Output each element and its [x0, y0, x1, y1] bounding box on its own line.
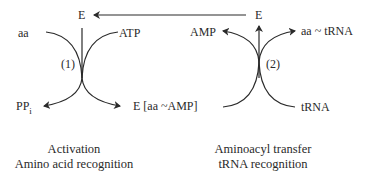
e-aa-amp-output-arrow	[82, 78, 120, 106]
caption-1-line-1: Activation	[8, 142, 140, 157]
ppi-output-arrow	[44, 78, 82, 106]
enzyme-label-2: E	[255, 8, 262, 22]
step-label-1: (1)	[61, 57, 75, 71]
amp-label: AMP	[190, 25, 216, 39]
ppi-text: PP	[16, 99, 30, 113]
trna-label: tRNA	[301, 100, 330, 114]
e-aa-amp-label: E [aa ~AMP]	[133, 99, 197, 113]
aa-input-curve	[46, 32, 82, 78]
caption-2-line-2: tRNA recognition	[202, 157, 324, 172]
ppi-subscript: i	[29, 106, 32, 116]
amp-output-arrow	[223, 31, 259, 62]
ppi-label: PPi	[16, 99, 32, 116]
atp-input-curve	[82, 32, 118, 78]
aa-trna-label: aa ~ tRNA	[301, 24, 353, 38]
enzyme-label-1: E	[78, 8, 85, 22]
atp-label: ATP	[119, 26, 141, 40]
caption-2-line-1: Aminoacyl transfer	[202, 142, 324, 157]
step-label-2: (2)	[266, 57, 280, 71]
e-aa-amp-input-curve	[223, 62, 259, 107]
caption-1-line-2: Amino acid recognition	[8, 157, 140, 172]
aa-label: aa	[18, 26, 29, 40]
caption-reaction-1: Activation Amino acid recognition	[8, 142, 140, 172]
caption-reaction-2: Aminoacyl transfer tRNA recognition	[202, 142, 324, 172]
